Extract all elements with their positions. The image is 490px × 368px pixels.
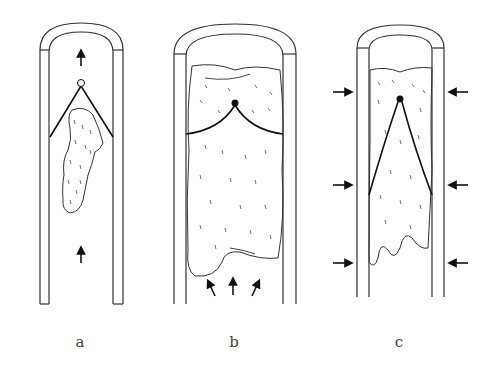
panel-label-b: b [229,333,239,351]
valve-cusps [186,105,283,134]
valve-cusps [369,102,432,195]
thrombus [187,65,283,277]
thrombus-texture [68,120,91,204]
thrombus [63,108,103,213]
valve-node-filled [232,100,239,107]
compression-arrows [333,92,468,263]
vein-inner-wall [186,34,283,304]
flow-arrow-right [252,283,258,296]
panel-a [40,23,123,304]
flow-arrow-left [209,283,215,296]
valve-node-open [78,80,85,87]
panel-b [174,24,296,304]
valve-node-filled [397,96,404,103]
valve-cusps [50,86,113,137]
panel-label-c: c [395,333,403,351]
diagram-canvas [0,0,490,368]
panel-c [333,25,468,297]
thrombus-texture [200,85,272,249]
panel-label-a: a [76,333,85,351]
